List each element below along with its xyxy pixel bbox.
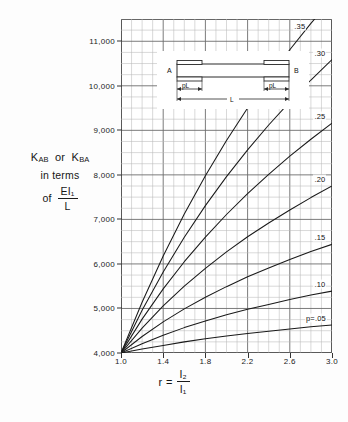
y-tick-mark [117,308,122,309]
x-tick-label: 2.6 [284,357,296,366]
beam-dim-span-l: L [230,96,234,103]
curve-10 [121,291,332,353]
x-fraction-denominator: I₁ [177,383,189,395]
beam-diagram: A B pL pL L [157,51,309,109]
curve-label-30: .30 [313,48,326,57]
x-tick-label: 1.8 [199,357,211,366]
curve-label-p05: p=.05 [305,313,327,322]
x-tick-label: 1.4 [157,357,169,366]
fraction-bar [58,198,78,199]
curve-label-35: .35 [293,22,306,31]
y-tick-mark [117,219,122,220]
x-tick-mark [205,353,206,358]
x-axis-title: r = I₂ I₁ [0,368,348,395]
x-tick-mark [332,353,333,358]
y-axis-title: KAB or KBA in terms of EI₁ L [4,150,116,212]
curve-15 [121,244,332,353]
fraction-numerator: EI₁ [58,185,78,197]
y-tick-mark [117,130,122,131]
x-tick-mark [163,353,164,358]
ei-over-l-fraction: EI₁ L [58,185,78,212]
y-tick-mark [117,174,122,175]
x-tick-mark [121,353,122,358]
beam-dim-pl-left: pL [182,82,190,90]
x-tick-mark [248,353,249,358]
curve-25 [121,123,332,353]
x-tick-mark [290,353,291,358]
x-tick-label: 3.0 [326,357,338,366]
k-ba-subscript: BA [79,155,89,164]
y-axis-title-line1: KAB or KBA [4,150,116,166]
x-fraction-bar [177,381,190,382]
y-axis-title-line3: of EI₁ L [4,185,116,212]
i2-over-i1-fraction: I₂ I₁ [177,368,190,395]
x-tick-label: 1.0 [115,357,127,366]
x-tick-label: 2.2 [242,357,254,366]
y-tick-mark [117,41,122,42]
r-symbol: r [158,376,162,388]
x-fraction-numerator: I₂ [177,368,190,380]
fraction-denominator: L [62,200,74,212]
of-text: of [42,191,51,206]
beam-label-b: B [294,67,299,74]
curve-label-10: .10 [313,280,326,289]
plot-area: 4,0005,0006,0007,0008,0009,00010,00011,0… [121,19,332,353]
k-ab-subscript: AB [38,155,48,164]
curve-label-25: .25 [313,112,326,121]
beam-diagram-svg: A B pL pL L [157,51,309,109]
curve-label-20: .20 [313,175,326,184]
figure-page: KAB or KBA in terms of EI₁ L 4,0005,0006… [0,0,348,422]
or-text: or [55,151,65,163]
equals-sign: = [166,376,172,388]
beam-label-a: A [167,67,172,74]
y-tick-mark [117,263,122,264]
beam-dim-pl-right: pL [269,82,277,90]
curve-label-15: .15 [313,233,326,242]
y-tick-mark [117,85,122,86]
